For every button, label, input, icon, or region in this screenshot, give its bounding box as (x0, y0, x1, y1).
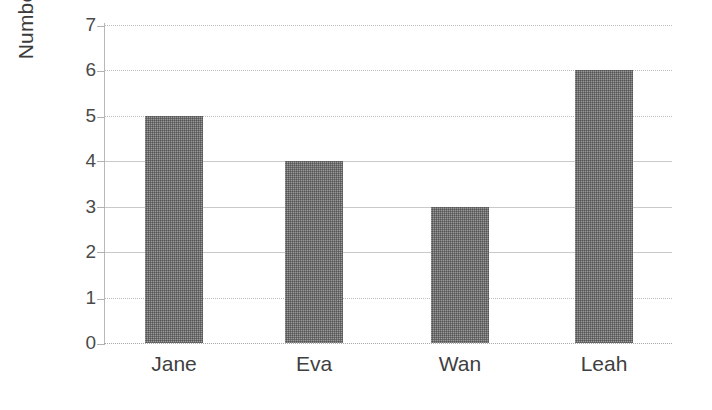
y-tick-label-3: 3 (72, 196, 96, 218)
bar-leah[interactable] (575, 70, 633, 343)
bar-eva[interactable] (285, 161, 343, 343)
x-tick-label-leah: Leah (539, 352, 669, 376)
y-tick-label-5: 5 (72, 105, 96, 127)
y-axis-tick-labels: 7 6 5 4 3 2 1 0 (64, 0, 96, 410)
x-axis-tick-labels: Jane Eva Wan Leah (104, 352, 672, 392)
bar-jane[interactable] (145, 116, 203, 343)
tick-mark-3 (97, 207, 105, 208)
gridline-7 (104, 25, 672, 26)
y-tick-label-4: 4 (72, 150, 96, 172)
y-axis-title: Number of Pets (14, 0, 44, 105)
tick-mark-1 (97, 299, 105, 300)
gridline-0-baseline (104, 343, 672, 344)
tick-mark-4 (97, 161, 105, 162)
bar-chart: Number of Pets 7 6 5 4 3 2 1 0 Jane Eva … (0, 0, 712, 410)
tick-mark-5 (97, 117, 105, 118)
tick-mark-0 (97, 344, 105, 345)
y-tick-label-2: 2 (72, 241, 96, 263)
x-tick-label-wan: Wan (395, 352, 525, 376)
tick-mark-7 (97, 26, 105, 27)
y-tick-label-7: 7 (72, 14, 96, 36)
y-tick-label-1: 1 (72, 287, 96, 309)
x-tick-label-eva: Eva (249, 352, 379, 376)
x-tick-label-jane: Jane (109, 352, 239, 376)
plot-area (104, 25, 672, 343)
bar-wan[interactable] (431, 207, 489, 343)
tick-mark-6 (97, 71, 105, 72)
tick-mark-2 (97, 252, 105, 253)
y-tick-label-6: 6 (72, 59, 96, 81)
y-tick-label-0: 0 (72, 332, 96, 354)
